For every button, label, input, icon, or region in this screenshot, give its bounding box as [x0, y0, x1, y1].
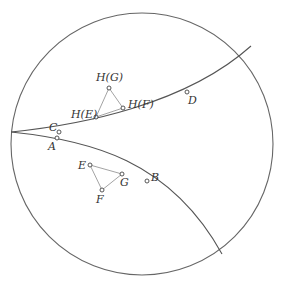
point-F [100, 188, 104, 192]
label-F: F [95, 193, 104, 206]
diagram-canvas: ACDBEGFH(G)H(E)H(F) [0, 0, 282, 288]
point-C [57, 130, 61, 134]
label-HF: H(F) [127, 98, 154, 111]
point-E [88, 163, 92, 167]
hyperbolic-diagram: ACDBEGFH(G)H(E)H(F) [0, 0, 282, 288]
point-HG [107, 86, 111, 90]
label-HG: H(G) [95, 71, 123, 84]
label-A: A [47, 140, 56, 153]
label-HE: H(E) [70, 108, 97, 121]
triangle-EFG [90, 165, 122, 190]
label-C: C [49, 121, 58, 134]
label-G: G [120, 176, 129, 189]
label-E: E [77, 159, 86, 172]
upper-geodesic [11, 46, 251, 132]
lower-geodesic [11, 132, 222, 254]
point-HF [121, 106, 125, 110]
label-D: D [187, 94, 197, 107]
point-B [145, 179, 149, 183]
label-B: B [150, 171, 159, 184]
